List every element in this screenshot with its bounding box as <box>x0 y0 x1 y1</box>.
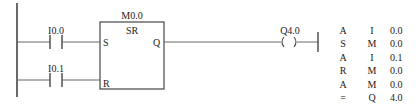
stl-addr: 0.0 <box>386 37 419 50</box>
coil-q4-0-icon <box>282 37 318 47</box>
stl-op: R <box>328 64 358 77</box>
stl-area: M <box>358 78 386 91</box>
stl-row: A M 0.0 <box>328 78 419 91</box>
stl-addr: 0.1 <box>386 51 419 64</box>
coil-label: Q4.0 <box>280 26 300 36</box>
stl-area: M <box>358 64 386 77</box>
contact-label-i0-0: I0.0 <box>48 26 64 36</box>
stl-area: I <box>358 51 386 64</box>
stl-op: S <box>328 37 358 50</box>
stl-area: M <box>358 37 386 50</box>
contact-i0-1-icon <box>17 73 100 87</box>
stl-area: Q <box>358 91 386 104</box>
contact-label-i0-1: I0.1 <box>48 64 64 74</box>
sr-block-address: M0.0 <box>121 11 142 21</box>
stl-row: A I 0.0 <box>328 24 419 37</box>
sr-pin-set: S <box>103 38 109 48</box>
stl-row: R M 0.0 <box>328 64 419 77</box>
stl-listing: A I 0.0 S M 0.0 A I 0.1 R M 0.0 A M 0.0 … <box>328 24 419 104</box>
stl-op: = <box>328 91 358 104</box>
stl-addr: 0.0 <box>386 24 419 37</box>
stl-row: S M 0.0 <box>328 37 419 50</box>
stl-row: = Q 4.0 <box>328 91 419 104</box>
stl-row: A I 0.1 <box>328 51 419 64</box>
stl-op: A <box>328 78 358 91</box>
stl-op: A <box>328 24 358 37</box>
contact-i0-0-icon <box>17 35 100 49</box>
stl-addr: 0.0 <box>386 78 419 91</box>
stl-area: I <box>358 24 386 37</box>
sr-block-type: SR <box>126 26 138 36</box>
sr-pin-reset: R <box>103 79 110 89</box>
sr-pin-out: Q <box>153 38 160 48</box>
stl-addr: 0.0 <box>386 64 419 77</box>
stl-op: A <box>328 51 358 64</box>
stl-addr: 4.0 <box>386 91 419 104</box>
